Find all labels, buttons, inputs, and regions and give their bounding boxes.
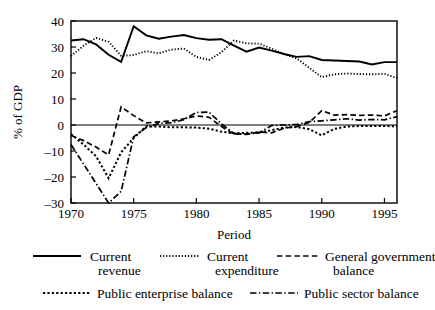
y-tick-label: –10 [44, 144, 65, 159]
x-tick-label: 1970 [58, 206, 84, 221]
x-axis-title: Period [217, 227, 251, 242]
legend-entry: Currentrevenue [33, 249, 141, 278]
y-tick-label: 10 [51, 92, 64, 107]
y-tick-label: 30 [51, 40, 64, 55]
chart-figure: –30–20–100102030401970197519801985199019… [0, 0, 435, 310]
series-line [71, 38, 397, 78]
legend-label: Public sector balance [304, 286, 419, 301]
legend-label: Current [90, 249, 131, 264]
x-tick-label: 1980 [183, 206, 209, 221]
line-chart: –30–20–100102030401970197519801985199019… [0, 0, 435, 310]
series-line [71, 26, 397, 64]
legend-entry: General governmentbalance [277, 249, 435, 278]
y-tick-label: 40 [51, 14, 64, 29]
legend-label: revenue [98, 263, 141, 278]
legend-entry: Public sector balance [250, 286, 419, 301]
legend-entry: Currentexpenditure [160, 249, 279, 278]
plot-frame [71, 21, 397, 203]
y-tick-label: 0 [58, 118, 65, 133]
legend-label: Public enterprise balance [97, 286, 233, 301]
x-tick-label: 1975 [121, 206, 147, 221]
legend-label: balance [333, 263, 374, 278]
y-tick-label: 20 [51, 66, 64, 81]
legend-label: expenditure [215, 263, 279, 278]
x-tick-label: 1990 [309, 206, 335, 221]
legend-label: General government [325, 249, 435, 264]
y-tick-label: –20 [44, 170, 65, 185]
y-axis-title: % of GDP [10, 85, 25, 139]
legend-label: Current [207, 249, 248, 264]
x-tick-label: 1995 [371, 206, 397, 221]
series-line [71, 107, 397, 155]
x-tick-label: 1985 [246, 206, 272, 221]
legend-entry: Public enterprise balance [43, 286, 233, 301]
